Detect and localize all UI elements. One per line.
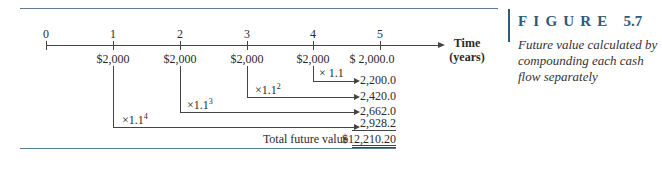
cash-flow-year-5: $ 2,000.0	[342, 52, 402, 67]
connector-year-1-horizontal	[113, 127, 356, 128]
figure-title-word: FIGURE	[518, 13, 614, 29]
tick-label-5: 5	[370, 27, 390, 42]
tick-label-2: 2	[170, 27, 190, 42]
multiplier-year-3: ×1.12	[255, 82, 281, 98]
tick-label-3: 3	[237, 27, 257, 42]
tick-label-1: 1	[103, 27, 123, 42]
tick-3	[247, 41, 248, 50]
timeline-arrow-icon	[438, 42, 445, 48]
top-rule	[20, 8, 498, 9]
connector-year-3-vertical	[247, 66, 248, 97]
time-label-line2: (years)	[446, 50, 488, 64]
tick-label-0: 0	[36, 27, 56, 42]
time-axis-label: Time (years)	[446, 36, 488, 64]
figure-accent-bar	[508, 9, 510, 42]
multiplier-year-2: ×1.13	[187, 97, 213, 113]
fv-year-3: 2,420.0	[336, 89, 396, 104]
total-double-underline-2	[352, 147, 396, 148]
connector-year-4-vertical	[313, 66, 314, 81]
connector-year-1-vertical	[113, 66, 114, 127]
total-double-underline-1	[352, 145, 396, 146]
time-label-line1: Time	[446, 36, 488, 50]
multiplier-year-1: ×1.14	[122, 112, 148, 128]
bottom-rule	[20, 148, 396, 149]
timeline-axis	[46, 45, 442, 46]
figure-title: FIGURE 5.7	[518, 13, 642, 30]
figure-number: 5.7	[624, 13, 643, 29]
cash-flow-year-1: $2,000	[83, 52, 143, 67]
cash-flow-year-3: $2,000	[217, 52, 277, 67]
figure-caption: Future value calculated by compounding e…	[518, 37, 658, 85]
cash-flow-year-4: $2,000	[283, 52, 343, 67]
total-label: Total future value	[220, 132, 348, 147]
fv-year-4: 2,200.0	[336, 73, 396, 88]
tick-label-4: 4	[303, 27, 323, 42]
sum-underline	[352, 130, 396, 131]
fv-year-1: 2,928.2	[336, 116, 396, 131]
connector-year-2-vertical	[180, 66, 181, 112]
tick-4	[313, 41, 314, 50]
tick-1	[113, 41, 114, 50]
tick-0	[46, 41, 47, 50]
tick-5	[380, 41, 381, 50]
tick-2	[180, 41, 181, 50]
cash-flow-year-2: $2,000	[150, 52, 210, 67]
